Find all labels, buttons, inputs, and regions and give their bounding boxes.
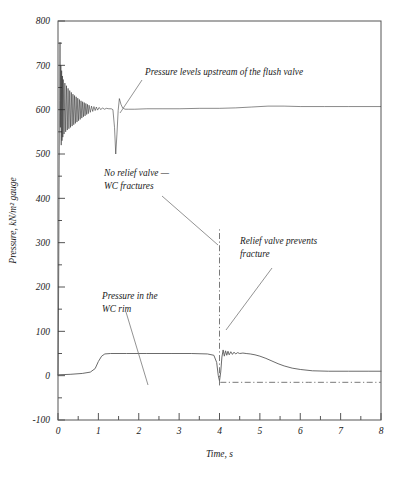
y-tick-label: 300 [35,238,51,248]
annotation-leaders-group [120,80,272,385]
y-tick-label: 700 [36,61,51,71]
x-tick-label: 8 [379,426,384,436]
y-tick-label: -100 [33,415,51,425]
x-tick-label: 0 [56,426,61,436]
annot-wc-rim-line: Pressure in the [101,291,158,301]
y-tick-label: 200 [36,282,51,292]
annot-relief-prevents-line: fracture [240,249,270,259]
y-tick-label: 400 [36,194,51,204]
x-tick-label: 6 [298,426,303,436]
x-tick-label: 4 [217,426,222,436]
y-tick-label: 0 [45,371,50,381]
y-tick-label: 500 [36,149,51,159]
annot-no-relief-leader [162,196,218,245]
x-tick-label: 5 [258,426,263,436]
y-tick-label: 100 [36,327,51,337]
x-tick-label: 3 [176,426,182,436]
series-path [58,42,381,375]
annot-wc-rim-line: WC rim [102,304,131,314]
annot-no-relief-line: No relief valve — [103,168,170,178]
annot-relief-prevents-leader [226,268,272,330]
y-tick-label: 800 [36,16,51,26]
annot-flush-valve-line: Pressure levels upstream of the flush va… [144,67,303,77]
x-tick-label: 1 [96,426,101,436]
annot-relief-prevents-line: Relief valve prevents [239,236,317,246]
x-tick-label: 2 [136,426,141,436]
annotations-group: Pressure levels upstream of the flush va… [101,67,317,314]
annot-wc-rim-leader [126,312,148,385]
pressure-time-chart: -1000100200300400500600700800012345678 P… [0,0,404,500]
x-tick-label: 7 [338,426,344,436]
annot-no-relief-line: WC fractures [104,181,154,191]
y-axis-title: Pressure, kN/m² gauge [8,177,18,264]
x-axis-title: Time, s [206,449,233,459]
chart-page: -1000100200300400500600700800012345678 P… [0,0,404,500]
annot-flush-valve-leader [120,80,142,113]
y-tick-label: 600 [36,105,51,115]
